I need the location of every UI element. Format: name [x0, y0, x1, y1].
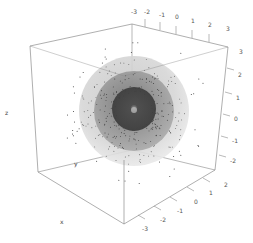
right-axis-tick-labels: 3 2 1 0 -1 -2 — [230, 48, 243, 164]
z-axis-title: z — [5, 109, 8, 116]
svg-text:0: 0 — [234, 115, 238, 122]
svg-text:-3: -3 — [142, 225, 148, 232]
svg-text:-1: -1 — [177, 207, 183, 214]
svg-text:3: 3 — [239, 48, 243, 55]
x-axis-title: x — [60, 218, 64, 225]
svg-text:1: 1 — [209, 189, 213, 196]
svg-text:2: 2 — [238, 71, 242, 78]
svg-text:0: 0 — [175, 13, 179, 20]
svg-text:-2: -2 — [144, 8, 150, 15]
svg-text:2: 2 — [208, 21, 212, 28]
svg-text:3: 3 — [226, 25, 230, 32]
svg-text:0: 0 — [194, 198, 198, 205]
svg-text:-1: -1 — [159, 11, 165, 18]
svg-text:2: 2 — [224, 181, 228, 188]
svg-text:-3: -3 — [131, 8, 137, 15]
y-axis-title: y — [74, 160, 78, 168]
svg-text:-2: -2 — [160, 216, 166, 223]
svg-text:1: 1 — [236, 94, 240, 101]
svg-text:-1: -1 — [232, 137, 238, 144]
svg-text:1: 1 — [191, 17, 195, 24]
top-axis-tick-labels: -3 -2 -1 0 1 2 3 — [131, 8, 230, 32]
3d-scatter-plot[interactable]: -3 -2 -1 0 1 2 3 3 2 1 0 -1 -2 2 1 0 -1 … — [0, 0, 253, 243]
center-highlight — [131, 107, 137, 113]
svg-text:-2: -2 — [230, 157, 236, 164]
